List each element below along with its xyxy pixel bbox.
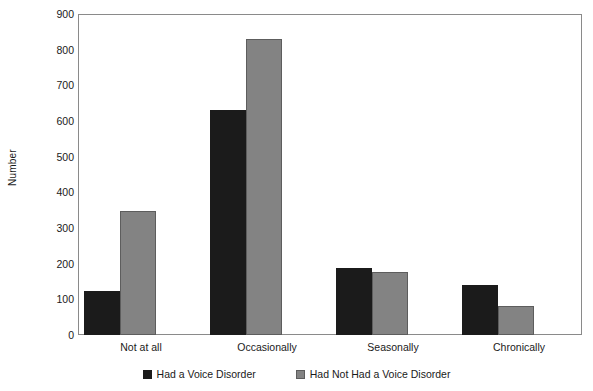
legend-item[interactable]: Had a Voice Disorder [143,368,256,380]
x-axis-tick-labels: Not at allOccasionallySeasonallyChronica… [78,340,582,356]
x-axis-tick-label: Chronically [493,340,545,354]
y-axis-title: Number [2,0,22,335]
bar-chart: Number 0100200300400500600700800900 Not … [0,0,593,391]
y-axis-tick-labels: 0100200300400500600700800900 [28,0,74,349]
legend-item[interactable]: Had Not Had a Voice Disorder [296,368,451,380]
bar[interactable] [84,291,120,335]
legend-label: Had a Voice Disorder [157,368,256,380]
legend-swatch-icon [296,370,305,379]
y-axis-tick-label: 300 [28,223,74,234]
y-axis-tick-label: 600 [28,116,74,127]
y-axis-tick-label: 400 [28,187,74,198]
bar-groups [78,14,582,335]
y-axis-tick-label: 900 [28,9,74,20]
y-axis-tick-label: 700 [28,80,74,91]
chart-legend: Had a Voice DisorderHad Not Had a Voice … [0,366,593,382]
bar[interactable] [120,211,156,335]
bar[interactable] [372,272,408,335]
y-axis-tick-label: 800 [28,44,74,55]
y-axis-tick-label: 200 [28,258,74,269]
bar[interactable] [498,306,534,335]
bar[interactable] [462,285,498,335]
y-axis-title-text: Number [7,149,18,186]
bar-group [204,14,330,335]
x-axis-tick-label: Seasonally [367,340,418,354]
bar-group [78,14,204,335]
x-axis-tick-label: Occasionally [237,340,297,354]
legend-label: Had Not Had a Voice Disorder [310,368,451,380]
legend-swatch-icon [143,370,152,379]
y-axis-tick-label: 500 [28,151,74,162]
y-axis-tick-label: 100 [28,294,74,305]
bar[interactable] [336,268,372,335]
bar[interactable] [210,110,246,335]
bar-group [330,14,456,335]
bar-group [456,14,582,335]
y-axis-tick-label: 0 [28,330,74,341]
bar[interactable] [246,39,282,335]
x-axis-tick-label: Not at all [120,340,161,354]
